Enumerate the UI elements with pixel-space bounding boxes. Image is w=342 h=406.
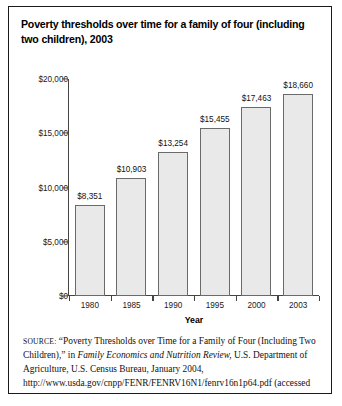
y-tick-mark <box>62 78 68 79</box>
bar[interactable] <box>158 152 188 296</box>
bar[interactable] <box>200 128 230 296</box>
source-journal-title: Family Economics and Nutrition Review, <box>77 350 231 360</box>
bar-value-label: $15,455 <box>191 115 239 124</box>
x-tick-label: 1990 <box>152 301 194 310</box>
x-tick-mark <box>111 296 112 301</box>
x-tick-mark <box>194 296 195 301</box>
bar-slot: $13,254 <box>152 67 194 296</box>
bar-slot: $15,455 <box>194 67 236 296</box>
y-tick-mark <box>62 187 68 188</box>
bar[interactable] <box>241 107 271 296</box>
bar-slot: $10,903 <box>111 67 153 296</box>
x-tick-label: 2000 <box>236 301 278 310</box>
chart-plot-area: $0$5,000$10,000$15,000$20,000 $8,351$10,… <box>21 67 321 327</box>
x-tick-label: 2003 <box>277 301 319 310</box>
bar-slot: $17,463 <box>236 67 278 296</box>
figure-frame: Poverty thresholds over time for a famil… <box>8 6 332 394</box>
bar-value-label: $17,463 <box>232 94 280 103</box>
x-tick-label: 1980 <box>69 301 111 310</box>
x-tick-label: 1985 <box>111 301 153 310</box>
x-axis-title: Year <box>69 315 319 325</box>
x-tick-mark <box>319 296 320 301</box>
bar[interactable] <box>283 94 313 296</box>
x-tick-mark <box>69 296 70 301</box>
bar-slot: $18,660 <box>277 67 319 296</box>
x-tick-mark <box>152 296 153 301</box>
source-note: SOURCE: “Poverty Thresholds over Time fo… <box>23 335 319 394</box>
bar[interactable] <box>116 178 146 296</box>
page-title: Poverty thresholds over time for a famil… <box>21 17 321 47</box>
bar-value-label: $13,254 <box>149 139 197 148</box>
bar-value-label: $8,351 <box>66 192 114 201</box>
x-tick-label: 1995 <box>194 301 236 310</box>
y-tick-mark <box>62 241 68 242</box>
x-tick-mark <box>277 296 278 301</box>
y-tick-mark <box>62 295 68 296</box>
y-tick-mark <box>62 133 68 134</box>
bar-value-label: $10,903 <box>107 165 155 174</box>
source-label: SOURCE: <box>23 337 56 346</box>
bar[interactable] <box>75 205 105 296</box>
x-tick-mark <box>236 296 237 301</box>
bar-series: $8,351$10,903$13,254$15,455$17,463$18,66… <box>69 67 319 296</box>
bar-value-label: $18,660 <box>274 81 322 90</box>
bar-slot: $8,351 <box>69 67 111 296</box>
